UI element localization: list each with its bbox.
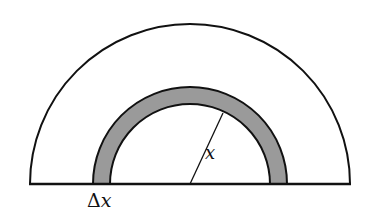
delta-variable: x: [101, 189, 112, 211]
radius-label: x: [205, 142, 215, 163]
shaded-shell: [93, 87, 287, 184]
delta-symbol: Δ: [87, 189, 101, 211]
diagram-canvas: [0, 0, 375, 214]
shell-width-label: Δx: [87, 189, 111, 211]
